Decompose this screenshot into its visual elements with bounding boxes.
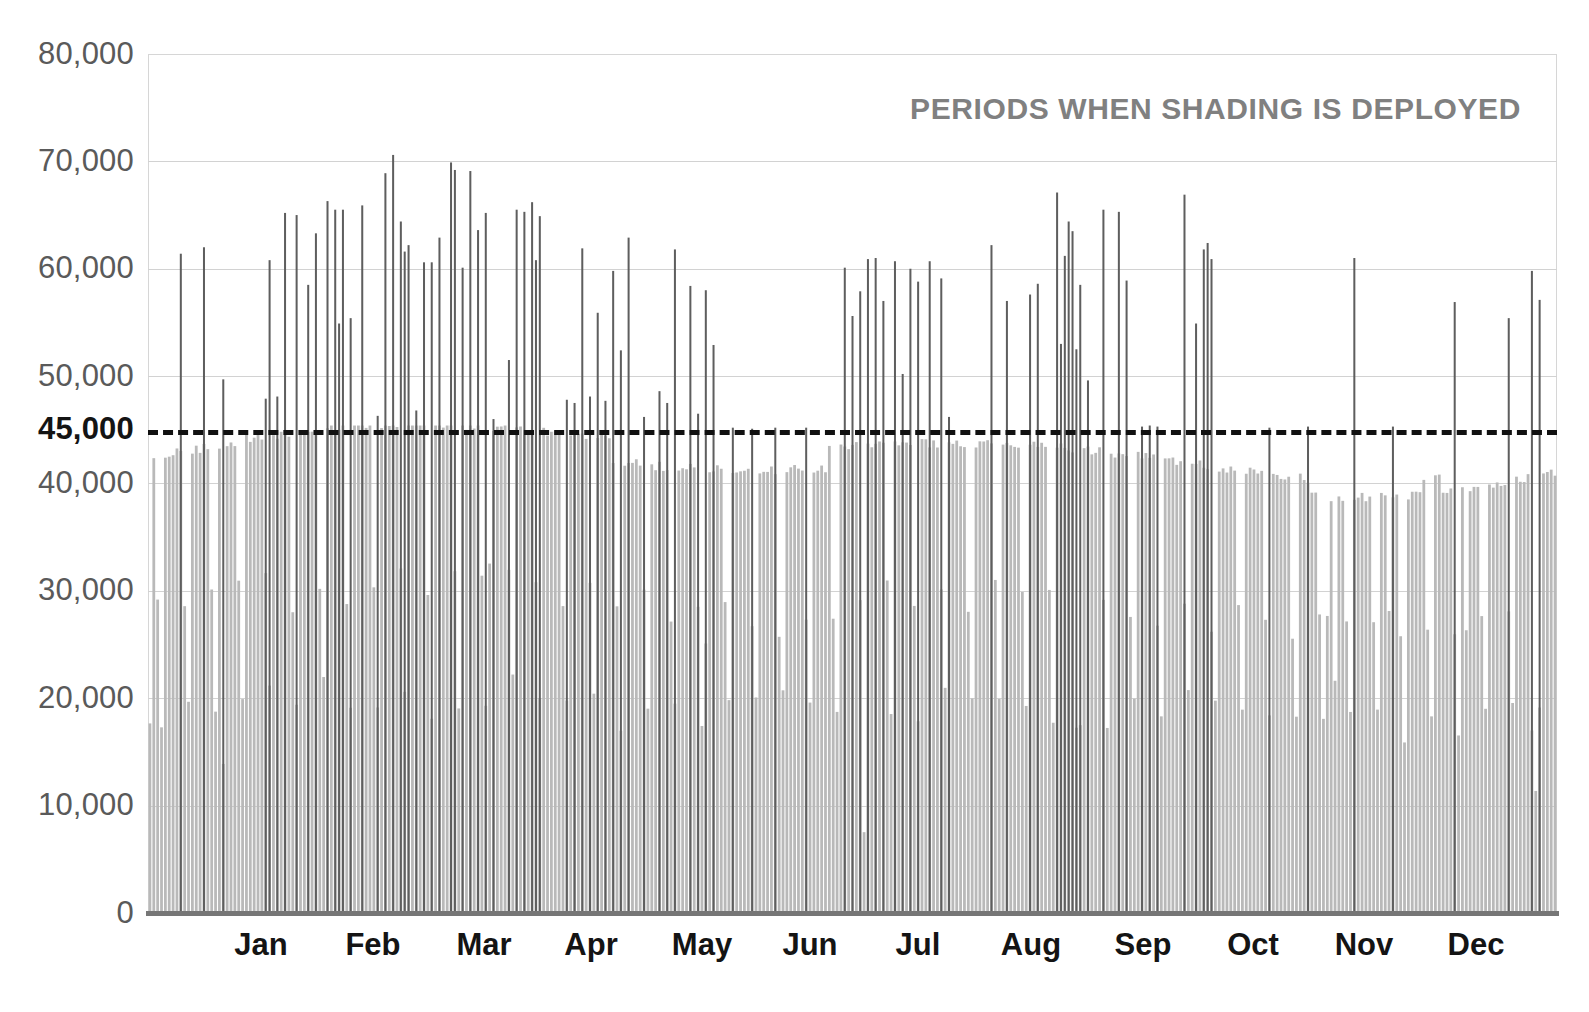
- spike-bar: [1102, 210, 1104, 913]
- spike-bar: [948, 417, 950, 913]
- y-tick-40000: 40,000: [38, 467, 134, 498]
- spike-bar: [566, 400, 568, 913]
- spike-bar: [1029, 295, 1031, 913]
- spike-bar: [1203, 249, 1205, 913]
- x-tick-feb: Feb: [345, 928, 400, 962]
- spike-bar: [392, 155, 394, 913]
- spike-bar: [574, 403, 576, 913]
- spike-bar: [539, 216, 541, 913]
- spike-bar: [1207, 243, 1209, 913]
- y-tick-30000: 30,000: [38, 574, 134, 605]
- spike-bar: [1037, 284, 1039, 913]
- spike-bar: [516, 210, 518, 913]
- spike-bar: [666, 403, 668, 913]
- spike-bar: [1531, 271, 1533, 913]
- spike-bar: [674, 249, 676, 913]
- spike-bar: [203, 247, 205, 913]
- spike-bar: [867, 259, 869, 913]
- spike-bar: [929, 261, 931, 913]
- spike-bar: [462, 268, 464, 913]
- spike-bar: [531, 202, 533, 913]
- spike-bar: [844, 268, 846, 913]
- spike-bar: [469, 171, 471, 913]
- spike-bar: [535, 260, 537, 913]
- spike-bar: [180, 254, 182, 913]
- spike-bar: [1072, 231, 1074, 913]
- spike-bar: [400, 222, 402, 914]
- y-tick-10000: 10,000: [38, 789, 134, 820]
- chart-title: PERIODS WHEN SHADING IS DEPLOYED: [910, 92, 1521, 126]
- x-tick-aug: Aug: [1001, 928, 1061, 962]
- spike-bar: [276, 397, 278, 913]
- spike-bar: [902, 374, 904, 913]
- spike-bar: [589, 397, 591, 913]
- spike-bar: [1508, 318, 1510, 913]
- x-tick-jul: Jul: [896, 928, 941, 962]
- x-tick-nov: Nov: [1335, 928, 1394, 962]
- spike-bar: [705, 290, 707, 913]
- spike-bar: [307, 285, 309, 913]
- spike-bar: [431, 262, 433, 913]
- y-tick-60000: 60,000: [38, 252, 134, 283]
- spike-bar: [1211, 259, 1213, 913]
- spike-bars-layer: [148, 54, 1557, 913]
- spike-bar: [508, 360, 510, 913]
- spike-bar: [852, 316, 854, 913]
- x-tick-jun: Jun: [782, 928, 837, 962]
- y-tick-50000: 50,000: [38, 360, 134, 391]
- spike-bar: [990, 245, 992, 913]
- y-tick-45000-threshold: 45,000: [38, 413, 134, 444]
- spike-bar: [265, 399, 267, 913]
- spike-bar: [697, 414, 699, 913]
- spike-bar: [338, 324, 340, 913]
- spike-bar: [604, 401, 606, 913]
- spike-bar: [1392, 427, 1394, 913]
- spike-bar: [384, 173, 386, 913]
- spike-bar: [909, 269, 911, 913]
- spike-bar: [361, 205, 363, 913]
- spike-bar: [296, 215, 298, 913]
- spike-bar: [805, 428, 807, 913]
- spike-bar: [1353, 258, 1355, 913]
- spike-bar: [523, 212, 525, 913]
- spike-bar: [485, 213, 487, 913]
- spike-bar: [454, 170, 456, 913]
- spike-bar: [1064, 256, 1066, 913]
- spike-bar: [1156, 427, 1158, 913]
- spike-bar: [612, 271, 614, 913]
- spike-bar: [1141, 427, 1143, 913]
- threshold-line-45000: [148, 430, 1557, 435]
- spike-bar: [894, 261, 896, 913]
- spike-bar: [492, 419, 494, 913]
- spike-bar: [643, 417, 645, 913]
- spike-bar: [689, 286, 691, 913]
- spike-bar: [1195, 324, 1197, 913]
- spike-bar: [334, 210, 336, 913]
- spike-bar: [774, 428, 776, 913]
- spike-bar: [1149, 426, 1151, 913]
- x-tick-apr: Apr: [564, 928, 617, 962]
- spike-bar: [315, 233, 317, 913]
- spike-bar: [408, 245, 410, 913]
- spike-bar: [1118, 212, 1120, 913]
- spike-bar: [350, 318, 352, 913]
- spike-bar: [327, 201, 329, 913]
- spike-bar: [751, 429, 753, 913]
- spike-bar: [1126, 281, 1128, 913]
- spike-bar: [1539, 300, 1541, 913]
- spike-bar: [415, 410, 417, 913]
- x-tick-sep: Sep: [1115, 928, 1172, 962]
- x-tick-mar: Mar: [456, 928, 511, 962]
- y-tick-70000: 70,000: [38, 145, 134, 176]
- spike-bar: [404, 252, 406, 913]
- spike-bar: [732, 428, 734, 913]
- spike-bar: [1006, 301, 1008, 913]
- spike-bar: [859, 291, 861, 913]
- spike-bar: [940, 278, 942, 913]
- chart-container: 80,000 70,000 60,000 50,000 45,000 40,00…: [0, 0, 1589, 1012]
- spike-bar: [1268, 428, 1270, 913]
- spike-bar: [450, 162, 452, 913]
- x-tick-dec: Dec: [1448, 928, 1505, 962]
- spike-bar: [477, 230, 479, 913]
- spike-bar: [438, 238, 440, 913]
